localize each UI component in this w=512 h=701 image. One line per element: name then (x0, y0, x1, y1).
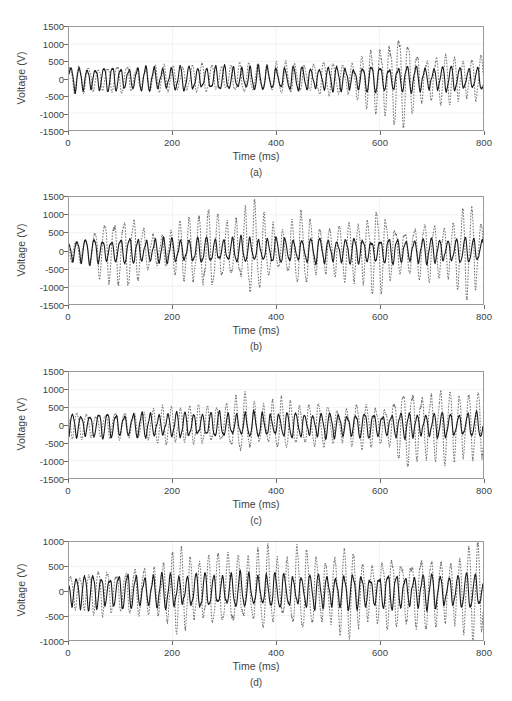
plot-area (68, 26, 484, 131)
x-axis-tick-mark (380, 131, 381, 135)
x-axis-tick-mark (68, 305, 69, 309)
x-axis-tick-label: 0 (65, 311, 70, 322)
x-axis-tick-label: 0 (65, 647, 70, 658)
x-axis-tick-mark (276, 479, 277, 483)
x-axis-tick-mark (276, 131, 277, 135)
y-axis-tick-label: -1000 (26, 281, 64, 292)
x-axis-tick-mark (380, 641, 381, 645)
chart-panel-a: Voltage (V)-1500-1000-500050010001500020… (0, 0, 512, 175)
x-axis-tick-label: 200 (164, 137, 180, 148)
chart-panel-c: Voltage (V)-1500-1000-500050010001500020… (0, 345, 512, 520)
y-axis-tick-label: 1500 (26, 191, 64, 202)
y-axis-tick-label: 1500 (26, 21, 64, 32)
x-axis-tick-label: 800 (476, 311, 492, 322)
x-axis-tick-mark (276, 641, 277, 645)
y-axis-tick-label: 0 (26, 245, 64, 256)
x-axis-tick-label: 800 (476, 485, 492, 496)
x-axis-tick-label: 400 (268, 137, 284, 148)
x-axis-tick-label: 200 (164, 647, 180, 658)
y-axis-tick-label: 1000 (26, 536, 64, 547)
x-axis-tick-mark (172, 305, 173, 309)
y-axis-tick-label: 0 (26, 420, 64, 431)
multi-panel-voltage-figure: Voltage (V)-1500-1000-500050010001500020… (0, 0, 512, 701)
y-axis-tick-label: -500 (26, 91, 64, 102)
chart-panel-b: Voltage (V)-1500-1000-500050010001500020… (0, 170, 512, 345)
x-axis-tick-label: 600 (372, 647, 388, 658)
x-axis-tick-label: 0 (65, 485, 70, 496)
x-axis-tick-mark (68, 131, 69, 135)
x-axis-tick-mark (276, 305, 277, 309)
x-axis-tick-label: 600 (372, 137, 388, 148)
y-axis-tick-label: -500 (26, 263, 64, 274)
x-axis-tick-label: 0 (65, 137, 70, 148)
y-axis-tick-label: 1500 (26, 366, 64, 377)
y-axis-tick-label: 1000 (26, 209, 64, 220)
chart-panel-d: Voltage (V)-1000-50005001000020040060080… (0, 520, 512, 701)
x-axis-tick-label: 400 (268, 311, 284, 322)
x-axis-tick-label: 200 (164, 311, 180, 322)
x-axis-tick-label: 800 (476, 137, 492, 148)
y-axis-tick-label: -1000 (26, 636, 64, 647)
x-axis-tick-mark (68, 479, 69, 483)
x-axis-tick-mark (68, 641, 69, 645)
x-axis-tick-mark (172, 641, 173, 645)
x-axis-tick-label: 400 (268, 647, 284, 658)
y-axis-tick-label: -500 (26, 438, 64, 449)
x-axis-tick-label: 600 (372, 311, 388, 322)
y-axis-tick-label: -500 (26, 611, 64, 622)
y-axis-tick-label: 1000 (26, 38, 64, 49)
x-axis-tick-label: 200 (164, 485, 180, 496)
grid-lines (69, 542, 483, 640)
y-axis-tick-label: 500 (26, 227, 64, 238)
y-axis-tick-label: -1500 (26, 300, 64, 311)
y-axis-tick-label: 500 (26, 56, 64, 67)
x-axis-tick-mark (484, 305, 485, 309)
y-axis-tick-label: 500 (26, 402, 64, 413)
y-axis-tick-label: -1500 (26, 126, 64, 137)
y-axis-tick-label: 1000 (26, 384, 64, 395)
x-axis-tick-mark (484, 641, 485, 645)
y-axis-tick-label: -1500 (26, 474, 64, 485)
x-axis-tick-label: 600 (372, 485, 388, 496)
panel-caption: (d) (0, 677, 512, 688)
x-axis-tick-mark (380, 305, 381, 309)
x-axis-tick-mark (484, 479, 485, 483)
x-axis-label: Time (ms) (0, 660, 512, 672)
y-axis-tick-label: 0 (26, 73, 64, 84)
plot-area (68, 541, 484, 641)
x-axis-tick-label: 400 (268, 485, 284, 496)
y-axis-tick-label: -1000 (26, 456, 64, 467)
x-axis-tick-label: 800 (476, 647, 492, 658)
plot-area (68, 196, 484, 305)
x-axis-label: Time (ms) (0, 150, 512, 162)
x-axis-tick-mark (380, 479, 381, 483)
plot-area (68, 371, 484, 479)
x-axis-label: Time (ms) (0, 324, 512, 336)
y-axis-tick-label: -1000 (26, 108, 64, 119)
x-axis-tick-mark (484, 131, 485, 135)
x-axis-tick-mark (172, 131, 173, 135)
y-axis-tick-label: 500 (26, 561, 64, 572)
y-axis-tick-label: 0 (26, 586, 64, 597)
x-axis-tick-mark (172, 479, 173, 483)
x-axis-label: Time (ms) (0, 498, 512, 510)
